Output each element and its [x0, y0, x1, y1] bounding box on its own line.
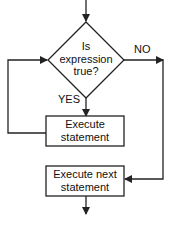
no-path-line — [124, 60, 163, 179]
decision-text: Is expression true? — [52, 40, 120, 78]
execute-next-line-2: statement — [46, 181, 124, 194]
decision-line-1: Is — [52, 40, 120, 53]
execute-statement-text: Execute statement — [46, 118, 124, 143]
loop-back-line — [8, 60, 47, 133]
execute-next-text: Execute next statement — [46, 168, 124, 193]
yes-label: YES — [58, 93, 80, 106]
execute-statement-line-1: Execute — [46, 118, 124, 131]
execute-next-line-1: Execute next — [46, 168, 124, 181]
execute-statement-line-2: statement — [46, 131, 124, 144]
decision-line-2: expression — [52, 53, 120, 66]
decision-line-3: true? — [52, 65, 120, 78]
no-label: NO — [134, 43, 151, 56]
